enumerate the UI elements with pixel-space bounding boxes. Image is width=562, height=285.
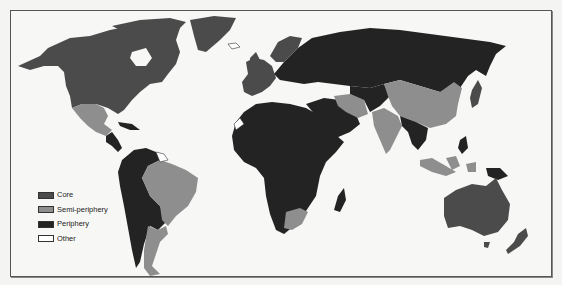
region-central-america bbox=[106, 132, 122, 152]
region-caribbean bbox=[118, 122, 140, 130]
region-japan bbox=[470, 80, 482, 108]
region-philippines bbox=[458, 136, 468, 154]
legend-swatch-core bbox=[38, 192, 54, 199]
region-tasmania bbox=[484, 242, 490, 248]
region-indonesia bbox=[420, 156, 476, 176]
legend-swatch-other bbox=[38, 235, 54, 242]
legend-label-other: Other bbox=[57, 232, 76, 247]
region-western-europe bbox=[242, 58, 276, 96]
legend-label-semi-periphery: Semi-periphery bbox=[57, 203, 108, 218]
region-mexico bbox=[72, 104, 112, 136]
region-southern-cone bbox=[144, 226, 168, 276]
legend-label-periphery: Periphery bbox=[57, 217, 89, 232]
region-greenland bbox=[190, 16, 236, 52]
region-madagascar bbox=[334, 188, 346, 212]
legend-item-other: Other bbox=[38, 232, 108, 247]
map-legend: Core Semi-periphery Periphery Other bbox=[38, 188, 108, 246]
legend-item-core: Core bbox=[38, 188, 108, 203]
region-arctic-islands bbox=[112, 18, 186, 32]
region-russia bbox=[274, 28, 506, 92]
region-iceland bbox=[228, 43, 240, 49]
region-papua-new-guinea bbox=[486, 168, 508, 180]
legend-swatch-periphery bbox=[38, 221, 54, 228]
legend-item-semi-periphery: Semi-periphery bbox=[38, 203, 108, 218]
region-north-america bbox=[18, 22, 180, 114]
region-new-zealand bbox=[506, 228, 528, 254]
region-india bbox=[372, 108, 402, 154]
region-australia bbox=[444, 178, 510, 236]
page: Core Semi-periphery Periphery Other bbox=[0, 0, 562, 285]
legend-label-core: Core bbox=[57, 188, 73, 203]
legend-item-periphery: Periphery bbox=[38, 217, 108, 232]
legend-swatch-semi-periphery bbox=[38, 206, 54, 213]
